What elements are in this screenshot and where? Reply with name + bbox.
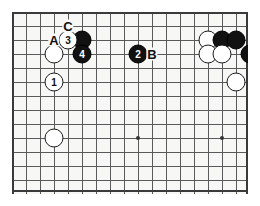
- stone-white: [227, 73, 246, 92]
- grid-line-horizontal: [12, 124, 248, 125]
- go-diagram-container: 3412 CAB: [0, 0, 260, 206]
- grid-line-vertical: [152, 12, 153, 194]
- stone-black: [241, 45, 249, 64]
- grid-line-horizontal: [12, 166, 248, 167]
- grid-line-horizontal: [12, 96, 248, 97]
- grid-line-vertical: [194, 12, 195, 194]
- board-label-b: B: [146, 48, 157, 61]
- grid-line-vertical: [124, 12, 125, 194]
- board-border-left: [12, 12, 14, 194]
- stone-move-number: 3: [65, 35, 71, 45]
- star-point: [220, 136, 224, 140]
- grid-line-vertical: [110, 12, 111, 194]
- grid-line-horizontal: [12, 152, 248, 153]
- stone-move-number: 1: [51, 77, 57, 87]
- stone-white: [45, 129, 64, 148]
- grid-line-vertical: [166, 12, 167, 194]
- board-border-top: [12, 12, 248, 14]
- stone-black-move-4: 4: [73, 45, 92, 64]
- grid-line-horizontal: [12, 110, 248, 111]
- grid-line-vertical: [180, 12, 181, 194]
- stone-move-number: 2: [135, 49, 141, 59]
- stone-white-move-1: 1: [45, 73, 64, 92]
- grid-line-vertical: [138, 12, 139, 194]
- grid-line-vertical: [26, 12, 27, 194]
- stone-move-number: 4: [79, 49, 85, 59]
- stone-white: [213, 45, 232, 64]
- grid-line-horizontal: [12, 180, 248, 181]
- grid-line-vertical: [40, 12, 41, 194]
- stone-black-move-2: 2: [129, 45, 148, 64]
- board-border-right: [246, 12, 248, 194]
- grid-line-horizontal: [12, 26, 248, 27]
- board-label-c: C: [62, 20, 73, 33]
- board-border-bottom: [12, 190, 248, 192]
- go-board: 3412 CAB: [12, 12, 248, 194]
- grid-line-vertical: [96, 12, 97, 194]
- board-label-a: A: [48, 34, 59, 47]
- grid-line-horizontal: [12, 68, 248, 69]
- star-point: [136, 136, 140, 140]
